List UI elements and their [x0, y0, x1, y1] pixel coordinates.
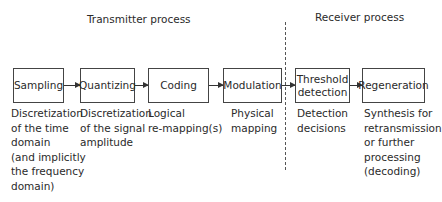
- desc-quantizing: Discretization of the signal amplitude: [80, 106, 152, 150]
- arrow-icon: [135, 85, 148, 86]
- arrow-icon: [209, 85, 223, 86]
- stage-regeneration: Regeneration: [362, 68, 425, 103]
- desc-threshold-detection: Detection decisions: [297, 106, 348, 135]
- transmitter-receiver-divider: [285, 22, 286, 170]
- stage-modulation: Modulation: [223, 68, 282, 103]
- arrow-icon: [282, 85, 295, 86]
- desc-regeneration: Synthesis for retransmission or further …: [364, 106, 442, 179]
- stage-sampling: Sampling: [13, 68, 64, 103]
- desc-coding: Logical re-mapping(s): [148, 106, 222, 135]
- receiver-process-header: Receiver process: [315, 11, 404, 23]
- desc-modulation: Physical mapping: [231, 106, 277, 135]
- desc-sampling: Discretization of the time domain (and i…: [11, 106, 86, 193]
- transmitter-process-header: Transmitter process: [87, 13, 191, 25]
- stage-threshold-detection: Threshold detection: [295, 68, 350, 103]
- stage-quantizing: Quantizing: [80, 68, 135, 103]
- stage-coding: Coding: [148, 68, 209, 103]
- arrow-icon: [64, 85, 80, 86]
